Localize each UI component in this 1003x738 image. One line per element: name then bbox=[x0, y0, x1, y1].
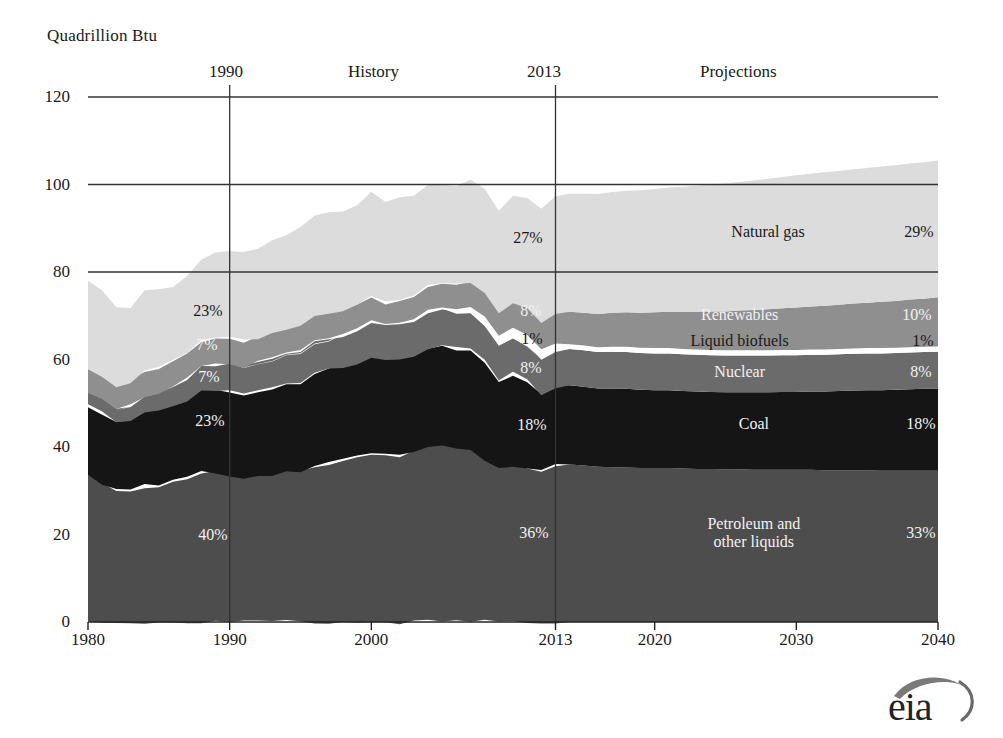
share-1990-natural-gas: 23% bbox=[193, 302, 222, 320]
share-2040-petroleum: 33% bbox=[906, 524, 935, 542]
share-2040-liquid-biofuels: 1% bbox=[912, 332, 933, 350]
share-2013-coal: 18% bbox=[517, 416, 546, 434]
y-axis-tick-120: 120 bbox=[18, 87, 70, 107]
share-2013-petroleum: 36% bbox=[519, 524, 548, 542]
share-2013-natural-gas: 27% bbox=[513, 229, 542, 247]
y-axis-tick-100: 100 bbox=[18, 175, 70, 195]
band-label-nuclear: Nuclear bbox=[714, 363, 765, 381]
share-2040-nuclear: 8% bbox=[910, 363, 931, 381]
share-1990-petroleum: 40% bbox=[198, 526, 227, 544]
y-axis-tick-20: 20 bbox=[18, 525, 70, 545]
share-1990-nuclear: 7% bbox=[198, 368, 219, 386]
x-axis-tick-2030: 2030 bbox=[779, 630, 813, 650]
plot-svg bbox=[0, 0, 1003, 738]
share-1990-renewables: 7% bbox=[196, 336, 217, 354]
x-axis-tick-2013: 2013 bbox=[539, 630, 573, 650]
band-label-petroleum-and-other-liquids: Petroleum andother liquids bbox=[707, 515, 800, 552]
energy-consumption-area-chart: Quadrillion Btu History Projections 1990… bbox=[0, 0, 1003, 738]
y-axis-tick-60: 60 bbox=[18, 350, 70, 370]
x-axis-tick-1980: 1980 bbox=[71, 630, 105, 650]
x-axis-tick-2040: 2040 bbox=[921, 630, 955, 650]
y-axis-tick-80: 80 bbox=[18, 262, 70, 282]
eia-logo: eia bbox=[884, 666, 980, 728]
band-label-renewables: Renewables bbox=[701, 306, 778, 324]
x-axis-tick-1990: 1990 bbox=[213, 630, 247, 650]
share-2013-nuclear: 8% bbox=[520, 359, 541, 377]
share-2013-liquid-biofuels: 1% bbox=[521, 330, 542, 348]
share-2040-coal: 18% bbox=[906, 415, 935, 433]
band-label-natural-gas: Natural gas bbox=[731, 223, 804, 241]
eia-logo-text: eia bbox=[888, 684, 933, 728]
share-2013-renewables: 8% bbox=[520, 302, 541, 320]
x-axis-tick-2020: 2020 bbox=[638, 630, 672, 650]
band-label-liquid-biofuels: Liquid biofuels bbox=[691, 332, 789, 350]
y-axis-tick-0: 0 bbox=[18, 612, 70, 632]
share-2040-natural-gas: 29% bbox=[904, 223, 933, 241]
x-axis-tick-2000: 2000 bbox=[354, 630, 388, 650]
share-1990-coal: 23% bbox=[195, 412, 224, 430]
y-axis-tick-40: 40 bbox=[18, 437, 70, 457]
band-label-coal: Coal bbox=[739, 415, 769, 433]
share-2040-renewables: 10% bbox=[902, 306, 931, 324]
